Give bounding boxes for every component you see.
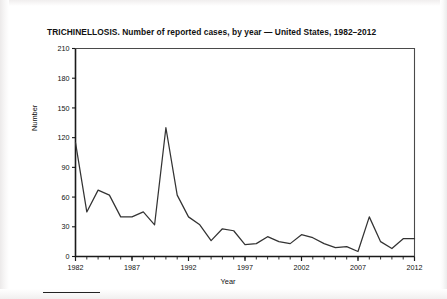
data-series-group xyxy=(76,128,415,252)
svg-text:2012: 2012 xyxy=(407,263,423,272)
svg-text:2002: 2002 xyxy=(294,263,310,272)
svg-text:1982: 1982 xyxy=(68,263,84,272)
y-axis-label: Number xyxy=(30,105,39,131)
figure-page: TRICHINELLOSIS. Number of reported cases… xyxy=(0,0,447,299)
svg-text:1997: 1997 xyxy=(237,263,253,272)
svg-text:120: 120 xyxy=(58,133,70,142)
svg-text:1987: 1987 xyxy=(124,263,140,272)
svg-text:0: 0 xyxy=(66,252,70,261)
chart-plot-area: 0306090120150180210 19821987199219972002… xyxy=(0,0,447,299)
svg-text:1992: 1992 xyxy=(181,263,197,272)
svg-text:60: 60 xyxy=(62,193,70,202)
x-axis-tick-labels: 1982198719921997200220072012 xyxy=(68,263,423,272)
svg-text:90: 90 xyxy=(62,163,70,172)
line-chart: 0306090120150180210 19821987199219972002… xyxy=(0,0,447,299)
svg-text:30: 30 xyxy=(62,222,70,231)
svg-text:210: 210 xyxy=(58,44,70,53)
svg-text:150: 150 xyxy=(58,104,70,113)
footnote-separator xyxy=(43,292,100,293)
svg-text:2007: 2007 xyxy=(350,263,366,272)
y-axis-tick-labels: 0306090120150180210 xyxy=(58,44,70,261)
svg-text:180: 180 xyxy=(58,74,70,83)
axis-frame xyxy=(76,49,415,257)
x-axis-label: Year xyxy=(221,277,236,286)
